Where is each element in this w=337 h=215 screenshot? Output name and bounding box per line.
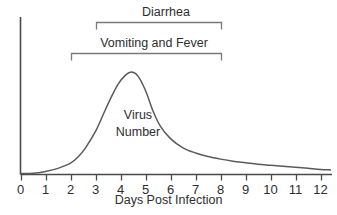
x-axis-tick-marks (22, 175, 322, 181)
chart-figure: 0123456789101112 Days Post Infection Dia… (0, 0, 337, 215)
annotation-bracket-diarrhea (97, 23, 222, 30)
x-axis-tick-label: 10 (263, 183, 277, 196)
x-axis-tick-label: 9 (242, 183, 249, 196)
annotation-bracket-vomiting-and-fever (72, 54, 222, 61)
annotation-label-diarrhea: Diarrhea (142, 6, 190, 19)
x-axis-title: Days Post Infection (115, 194, 223, 207)
x-axis-tick-label: 3 (92, 183, 99, 196)
series-label-virus-line1: Virus (124, 109, 152, 122)
x-axis-tick-label: 0 (17, 183, 24, 196)
x-axis-tick-label: 12 (313, 183, 327, 196)
virus-number-curve (21, 72, 331, 174)
annotation-label-vomiting-and-fever: Vomiting and Fever (100, 37, 208, 50)
x-axis-tick-label: 2 (67, 183, 74, 196)
x-axis-tick-label: 1 (42, 183, 49, 196)
x-axis-tick-label: 11 (289, 183, 303, 196)
series-label-virus-line2: Number (116, 126, 160, 139)
